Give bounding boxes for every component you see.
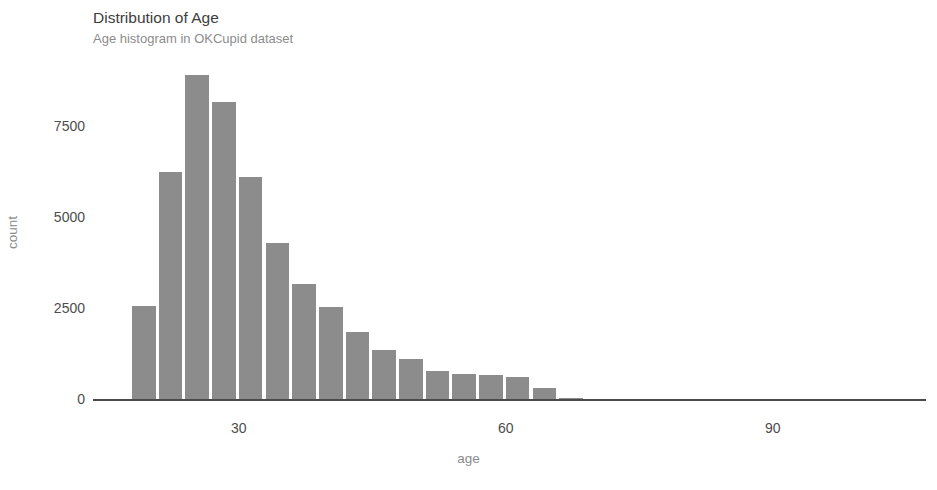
x-tick-label: 30 <box>199 420 279 436</box>
histogram-bar <box>159 172 183 400</box>
x-axis-line <box>93 399 926 401</box>
y-tick: 2500 <box>10 301 85 315</box>
histogram-bar <box>132 306 156 399</box>
histogram-bar <box>239 177 263 399</box>
histogram-bar <box>506 377 530 399</box>
x-tick: 60 <box>466 420 546 436</box>
y-tick-label: 7500 <box>15 119 85 133</box>
histogram-bar <box>292 284 316 399</box>
histogram-bar <box>479 375 503 399</box>
x-axis-title: age <box>0 451 937 466</box>
y-tick-label: 5000 <box>15 210 85 224</box>
y-tick: 7500 <box>10 119 85 133</box>
histogram-bar <box>426 371 450 399</box>
histogram-bar <box>399 359 423 399</box>
histogram-bar <box>212 102 236 399</box>
histogram-bar <box>372 350 396 400</box>
x-tick-label: 60 <box>466 420 546 436</box>
age-histogram-chart: Distribution of Age Age histogram in OKC… <box>0 0 937 490</box>
histogram-bar <box>319 307 343 400</box>
histogram-bar <box>185 75 209 399</box>
histogram-bar <box>266 243 290 400</box>
x-tick: 30 <box>199 420 279 436</box>
y-tick-label: 0 <box>15 392 85 406</box>
histogram-bar <box>559 398 583 400</box>
histogram-bar <box>533 388 557 399</box>
x-tick-label: 90 <box>733 420 813 436</box>
plot-area <box>0 0 937 490</box>
histogram-bar <box>346 332 370 399</box>
y-tick: 0 <box>10 392 85 406</box>
y-tick-label: 2500 <box>15 301 85 315</box>
y-tick: 5000 <box>10 210 85 224</box>
histogram-bar <box>452 374 476 400</box>
y-axis-title: count <box>5 203 20 263</box>
x-tick: 90 <box>733 420 813 436</box>
